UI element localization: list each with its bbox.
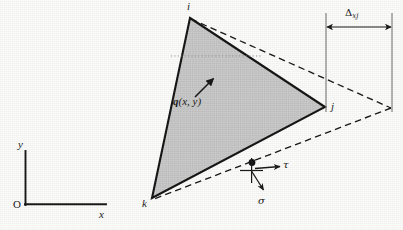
vertex-label-k: k [142,198,147,209]
sigma-label: σ [258,196,265,206]
shaded-triangle [152,18,325,198]
load-arguments: (x, y) [179,95,202,107]
vertex-label-i: i [187,1,190,12]
triangle-fill [152,18,325,198]
tau-label: τ [283,160,289,170]
delta-xj-dimension [326,13,392,112]
diagram-svg [0,0,403,230]
origin-label: O [13,199,21,210]
sigma-arrow [252,171,264,190]
vertex-label-j: j [331,101,334,112]
load-label: q(x, y) [173,96,201,107]
figure-canvas: i j k q(x, y) τ σ Δxj y x O [0,0,403,230]
stress-element [240,158,280,190]
y-axis-label: y [18,139,23,150]
x-axis-label: x [99,209,104,220]
tau-arrow [255,167,280,169]
delta-subscript: xj [352,12,358,20]
coordinate-axes [25,151,106,205]
dimension-label: Δxj [345,8,358,20]
